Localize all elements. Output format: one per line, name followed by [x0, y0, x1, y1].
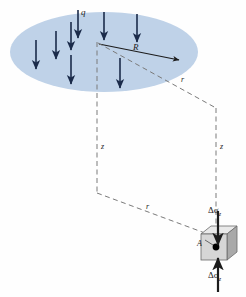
stress-subscript-top: z — [219, 211, 221, 217]
radius-label: R — [133, 43, 139, 52]
figure-canvas: q R r r z z A Δσz Δσz — [0, 0, 246, 297]
stress-label-bottom: Δσz — [208, 271, 221, 282]
point-a-label: A — [197, 240, 202, 248]
load-label: q — [81, 8, 86, 17]
stress-subscript-bottom: z — [219, 276, 221, 282]
stress-label-top: Δσz — [208, 206, 221, 217]
depth-label-right: z — [220, 143, 223, 151]
radial-distance-label-upper: r — [181, 76, 184, 84]
stress-delta-top: Δσ — [208, 205, 219, 215]
stress-delta-bottom: Δσ — [208, 270, 219, 280]
radial-distance-label-lower: r — [146, 203, 149, 211]
radial-distance-line-lower — [97, 193, 213, 236]
depth-label-left: z — [101, 143, 104, 151]
diagram-svg — [0, 0, 246, 297]
